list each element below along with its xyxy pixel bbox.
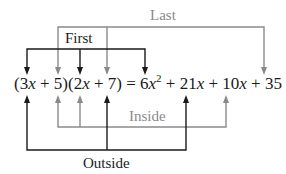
first-bracket <box>27 49 145 70</box>
outside-arrowheads <box>24 95 189 103</box>
eq-part: (3 <box>14 74 28 93</box>
inside-label: Inside <box>129 108 166 124</box>
inside-arrowheads <box>55 95 229 103</box>
last-label: Last <box>150 7 177 23</box>
outside-label: Outside <box>83 155 130 171</box>
first-label: First <box>65 30 93 46</box>
eq-part: + 5)(2 <box>36 74 82 93</box>
eq-part: + 7) = 6 <box>90 74 149 93</box>
eq-part: + 35 <box>247 74 282 93</box>
equation: (3x + 5)(2x + 7) = 6x2 + 21x + 10x + 35 <box>14 72 282 93</box>
eq-part: + 21 <box>162 74 197 93</box>
eq-part: + 10 <box>204 74 239 93</box>
foil-diagram: Last First (3x + 5)(2x + 7) = 6x2 + 21x … <box>0 0 286 174</box>
